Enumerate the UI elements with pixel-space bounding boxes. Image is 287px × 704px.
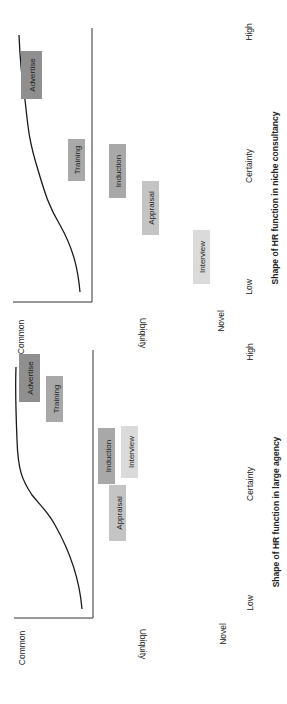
svg-text:Induction: Induction <box>104 440 113 472</box>
panel-large-agency: Advertise Training Induction Interview A… <box>14 343 281 665</box>
axis-label-common: Common <box>17 630 27 665</box>
axis-label-certainty: Certainty <box>245 466 255 501</box>
label-induction: Induction <box>98 428 115 484</box>
diagram-canvas: Advertise Training Induction Appraisal I… <box>0 0 287 704</box>
label-training: Training <box>46 376 63 422</box>
label-appraisal: Appraisal <box>109 485 126 541</box>
panel-niche-consultancy: Advertise Training Induction Appraisal I… <box>13 23 280 354</box>
label-advertise: Advertise <box>19 354 40 402</box>
svg-text:Interview: Interview <box>127 436 136 468</box>
label-appraisal: Appraisal <box>142 181 159 235</box>
svg-text:Appraisal: Appraisal <box>147 191 156 225</box>
label-induction: Induction <box>109 144 126 198</box>
axis-label-novel: Novel <box>218 623 228 645</box>
svg-text:Interview: Interview <box>198 241 207 273</box>
axis-label-ubiquity: Ubiquity <box>138 318 148 349</box>
axis-label-ubiquity: Ubiquity <box>138 629 148 660</box>
label-advertise: Advertise <box>21 51 42 99</box>
svg-text:Training: Training <box>52 385 61 414</box>
panel-title: Shape of HR function in niche consultanc… <box>270 111 280 284</box>
label-interview: Interview <box>193 230 210 284</box>
axis-label-high: High <box>244 23 254 41</box>
label-interview: Interview <box>121 426 138 478</box>
svg-text:Advertise: Advertise <box>28 58 37 92</box>
svg-text:Advertise: Advertise <box>26 361 35 395</box>
axis-label-novel: Novel <box>216 310 226 332</box>
label-training: Training <box>68 139 85 181</box>
axis-label-common: Common <box>16 319 26 354</box>
axis-label-high: High <box>245 343 255 361</box>
axis-label-low: Low <box>244 278 254 294</box>
panel-title: Shape of HR function in large agency <box>271 436 281 587</box>
axis-label-low: Low <box>245 594 255 610</box>
svg-text:Appraisal: Appraisal <box>115 496 124 530</box>
axis-label-certainty: Certainty <box>244 148 254 183</box>
svg-text:Induction: Induction <box>114 155 123 187</box>
svg-text:Training: Training <box>73 146 82 175</box>
